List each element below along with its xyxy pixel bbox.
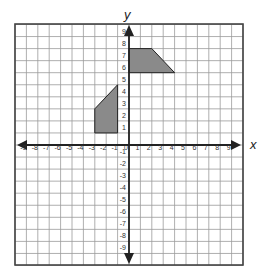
- y-tick-label: 4: [122, 88, 126, 95]
- x-tick-label: -8: [32, 144, 38, 151]
- x-axis-label: x: [249, 137, 257, 152]
- x-tick-label: -3: [89, 144, 95, 151]
- x-tick-label: 9: [227, 144, 231, 151]
- y-tick-label: 8: [122, 40, 126, 47]
- x-tick-label: -1: [111, 144, 117, 151]
- y-tick-label: 5: [122, 76, 126, 83]
- y-tick-label: 3: [122, 100, 126, 107]
- x-tick-label: 1: [135, 144, 139, 151]
- x-tick-label: -4: [77, 144, 83, 151]
- x-tick-label: 3: [158, 144, 162, 151]
- y-arrow-down-icon: [124, 253, 134, 264]
- y-tick-label: 6: [122, 64, 126, 71]
- y-tick-label: -5: [120, 196, 126, 203]
- y-tick-label: 9: [122, 28, 126, 35]
- x-tick-label: -9: [20, 144, 26, 151]
- y-tick-label: 1: [122, 124, 126, 131]
- x-tick-label: -7: [43, 144, 49, 151]
- y-tick-label: -7: [120, 220, 126, 227]
- x-tick-label: 2: [147, 144, 151, 151]
- shapes-layer: [95, 49, 175, 133]
- x-tick-label: -5: [66, 144, 72, 151]
- y-tick-label: -1: [120, 148, 126, 155]
- x-tick-label: 8: [215, 144, 219, 151]
- y-tick-label: -3: [120, 172, 126, 179]
- y-tick-label: -9: [120, 244, 126, 251]
- y-axis-label: y: [123, 7, 132, 22]
- y-tick-label: -2: [120, 160, 126, 167]
- y-tick-label: 7: [122, 52, 126, 59]
- y-tick-label: -8: [120, 232, 126, 239]
- x-arrow-right-icon: [231, 140, 241, 150]
- x-tick-label: 7: [204, 144, 208, 151]
- x-tick-label: 5: [181, 144, 185, 151]
- y-tick-label: -4: [120, 184, 126, 191]
- coordinate-plane: -9-8-7-6-5-4-3-2-10123456789987654321-1-…: [0, 0, 265, 278]
- y-tick-label: -6: [120, 208, 126, 215]
- x-tick-label: 6: [192, 144, 196, 151]
- x-tick-label: -2: [100, 144, 106, 151]
- x-tick-label: -6: [54, 144, 60, 151]
- tick-labels: -9-8-7-6-5-4-3-2-10123456789987654321-1-…: [20, 28, 230, 252]
- coordinate-grid-svg: -9-8-7-6-5-4-3-2-10123456789987654321-1-…: [0, 0, 265, 278]
- x-tick-label: 4: [170, 144, 174, 151]
- y-tick-label: 2: [122, 112, 126, 119]
